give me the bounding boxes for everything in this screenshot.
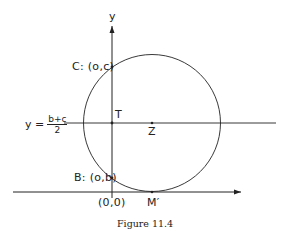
point-c-label: C: (o,c) [72, 60, 114, 73]
fraction-denominator: 2 [54, 125, 60, 135]
point-b-label: B: (o,b) [74, 171, 117, 184]
point-m-prime [151, 191, 154, 194]
origin-label: (0,0) [98, 196, 126, 209]
midline-fraction: b+c 2 [47, 114, 67, 135]
point-t [111, 122, 114, 125]
point-z [151, 122, 154, 125]
midline-lhs: y = [25, 118, 44, 131]
y-axis-label: y [109, 10, 116, 23]
point-z-label: Z [148, 125, 156, 138]
figure-11-4: y C: (o,c) B: (o,b) T Z M′ (0,0) y = b+c… [0, 0, 284, 235]
fraction-numerator: b+c [47, 114, 67, 125]
midline-equation: y = b+c 2 [25, 114, 67, 135]
point-m-prime-label: M′ [147, 196, 160, 209]
point-t-label: T [115, 108, 122, 121]
figure-caption: Figure 11.4 [117, 218, 173, 229]
